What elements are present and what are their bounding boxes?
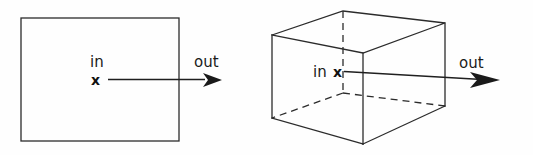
square-out-label: out	[194, 53, 219, 71]
cube-point-marker-x: x	[333, 64, 342, 80]
square-out-arrow-head	[203, 73, 222, 87]
cube-out-arrow-head	[470, 72, 500, 88]
square-panel: in x out	[21, 18, 222, 141]
cube-in-label: in	[313, 63, 327, 81]
cube-edge-front-bottom-right-to-back-bottom-right	[363, 106, 445, 144]
cube-top-face-edges	[272, 11, 445, 53]
cube-out-arrow-line	[344, 72, 482, 80]
cube-panel: in x out	[272, 11, 500, 144]
diagram-canvas: in x out in x out	[0, 0, 533, 155]
cube-out-label: out	[459, 54, 484, 72]
square-point-marker-x: x	[91, 72, 100, 88]
cube-hidden-edge-to-front-bottom-left	[272, 93, 343, 118]
cube-hidden-edge-to-back-bottom-right	[343, 93, 445, 106]
cube-edge-front-bottom-left-to-front-bottom-right	[272, 118, 363, 144]
square-in-label: in	[90, 53, 104, 71]
figure-container: in x out in x out	[0, 0, 533, 155]
